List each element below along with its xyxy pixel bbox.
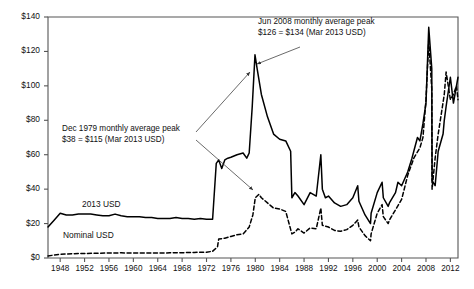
y-axis-tick-label: $140: [0, 11, 40, 21]
annotation-peak-2008: Jun 2008 monthly average peak $126 = $13…: [258, 17, 375, 38]
annotation-peak-2008-line1: Jun 2008 monthly average peak: [258, 17, 375, 28]
arrow-1979-to-real: [196, 72, 250, 132]
y-axis-tick-label: $120: [0, 45, 40, 55]
arrow-1979-to-nominal: [196, 140, 253, 190]
y-axis-tick-label: $100: [0, 80, 40, 90]
y-axis-tick-label: $40: [0, 183, 40, 193]
y-axis-tick-label: $80: [0, 114, 40, 124]
series-line-nominal: [48, 41, 458, 256]
y-axis-tick-label: $60: [0, 149, 40, 159]
series-label-nominal: Nominal USD: [63, 230, 114, 240]
annotation-peak-1979-line2: $38 = $115 (Mar 2013 USD): [62, 135, 180, 146]
y-axis-tick-label: $20: [0, 218, 40, 228]
y-axis-tick-label: $0: [0, 252, 40, 262]
x-axis-tick-label: 2012: [433, 264, 467, 273]
annotation-peak-2008-line2: $126 = $134 (Mar 2013 USD): [258, 28, 375, 39]
arrow-2008-to-peak: [257, 47, 300, 64]
oil-price-chart: Jun 2008 monthly average peak $126 = $13…: [0, 0, 474, 289]
annotation-peak-1979-line1: Dec 1979 monthly average peak: [62, 124, 180, 135]
annotation-peak-1979: Dec 1979 monthly average peak $38 = $115…: [62, 124, 180, 145]
series-label-real: 2013 USD: [82, 199, 121, 209]
